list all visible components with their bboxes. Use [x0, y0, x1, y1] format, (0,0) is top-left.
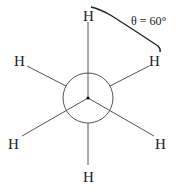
angle-label: θ = 60° — [131, 14, 167, 28]
bond-front-lower-left — [22, 98, 88, 136]
bond-front-lower-right — [88, 98, 154, 136]
atom-back-upper-right: H — [149, 53, 160, 69]
atom-back-upper-left: H — [14, 53, 25, 69]
bond-back-upper-right — [110, 66, 149, 86]
atom-front-lower-left: H — [8, 136, 19, 152]
atom-front-lower-right: H — [155, 136, 166, 152]
front-carbon-dot — [86, 96, 89, 99]
newman-projection-diagram: θ = 60° H H H H H H — [0, 0, 176, 192]
bond-back-upper-left — [27, 66, 66, 86]
atom-front-top: H — [83, 8, 94, 24]
atom-back-bottom: H — [83, 169, 94, 185]
